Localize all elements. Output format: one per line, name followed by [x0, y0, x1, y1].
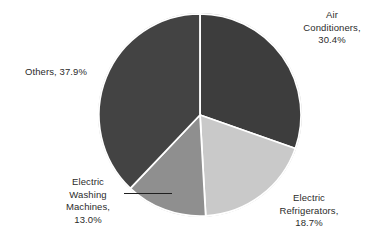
pie-label-air-conditioners: Air Conditioners, 30.4%	[286, 9, 378, 47]
pie-chart-figure: Air Conditioners, 30.4% Others, 37.9% El…	[0, 0, 379, 252]
pie-label-electric-washing-machines: Electric Washing Machines, 13.0%	[46, 176, 130, 226]
pie-label-others: Others, 37.9%	[8, 66, 104, 79]
pie-label-electric-refrigerators: Electric Refrigerators, 18.7%	[250, 192, 368, 230]
